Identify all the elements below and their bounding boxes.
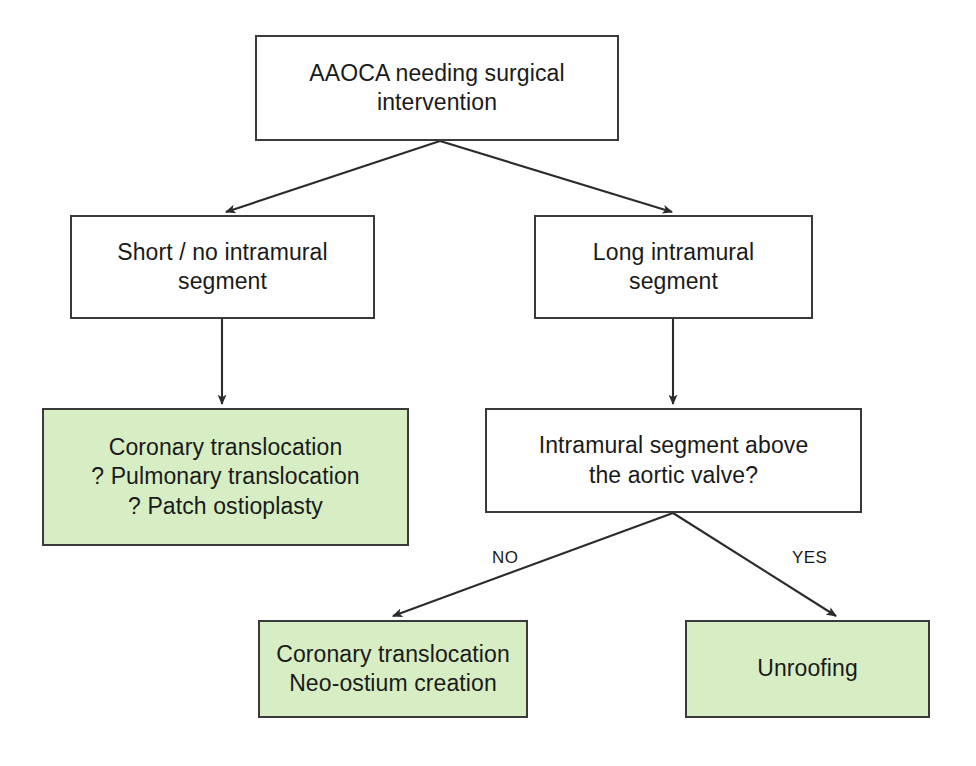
flowchart-canvas: AAOCA needing surgicalinterventionShort … <box>0 0 976 766</box>
node-label-line: ? Patch ostioplasty <box>52 492 399 521</box>
node-label-line: Intramural segment above <box>495 431 852 460</box>
flowchart-node-left_outcome: Coronary translocation? Pulmonary transl… <box>42 408 409 546</box>
node-label-line: ? Pulmonary translocation <box>52 462 399 491</box>
node-label-short_no_intramural: Short / no intramuralsegment <box>72 238 373 297</box>
node-label-decision_above_valve: Intramural segment abovethe aortic valve… <box>487 431 860 490</box>
node-label-line: intervention <box>265 88 609 117</box>
flowchart-node-no_outcome: Coronary translocationNeo-ostium creatio… <box>258 620 528 718</box>
node-label-line: Coronary translocation <box>268 640 518 669</box>
connector-decision-no <box>393 513 673 616</box>
node-label-no_outcome: Coronary translocationNeo-ostium creatio… <box>260 640 526 699</box>
flowchart-node-short_no_intramural: Short / no intramuralsegment <box>70 215 375 319</box>
edge-label-yes: YES <box>792 548 827 568</box>
node-label-line: segment <box>80 267 365 296</box>
node-label-line: segment <box>544 267 803 296</box>
edge-label-no: NO <box>492 548 518 568</box>
node-label-line: AAOCA needing surgical <box>265 59 609 88</box>
node-label-long_intramural: Long intramuralsegment <box>536 238 811 297</box>
node-label-line: Unroofing <box>695 654 920 683</box>
node-label-root: AAOCA needing surgicalintervention <box>257 59 617 118</box>
connector-root-to-long <box>440 141 672 212</box>
node-label-line: Long intramural <box>544 238 803 267</box>
flowchart-node-decision_above_valve: Intramural segment abovethe aortic valve… <box>485 408 862 513</box>
node-label-line: Short / no intramural <box>80 238 365 267</box>
connector-root-to-short <box>226 141 440 212</box>
flowchart-node-long_intramural: Long intramuralsegment <box>534 215 813 319</box>
flowchart-node-yes_outcome: Unroofing <box>685 620 930 718</box>
node-label-line: Coronary translocation <box>52 433 399 462</box>
flowchart-node-root: AAOCA needing surgicalintervention <box>255 35 619 141</box>
node-label-left_outcome: Coronary translocation? Pulmonary transl… <box>44 433 407 521</box>
node-label-yes_outcome: Unroofing <box>687 654 928 683</box>
node-label-line: the aortic valve? <box>495 461 852 490</box>
node-label-line: Neo-ostium creation <box>268 669 518 698</box>
